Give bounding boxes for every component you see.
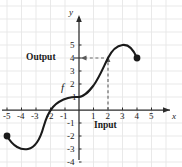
y-tick-label--1: -1 [67,119,75,128]
curve-endpoint-left [4,133,11,140]
output-guide-arrowhead [81,56,87,61]
graph-figure: -5 -4 -3 -2 -1 1 2 3 4 5 5 4 3 2 1 -1 -2… [0,0,182,167]
input-label: Input [94,121,117,131]
y-tick-label-1: 1 [72,93,77,102]
y-tick-label-4: 4 [70,54,75,63]
x-axis-name: x [172,112,176,121]
y-tick-label-3: 3 [70,67,75,76]
x-tick-label--5: -5 [3,112,11,121]
graph-canvas [0,0,182,167]
x-tick-label-5: 5 [149,112,154,121]
y-tick-label-5: 5 [70,41,75,50]
y-tick-label--2: -2 [67,132,75,141]
y-axis-name: y [69,8,73,17]
y-tick-label--4: -4 [67,158,75,167]
y-axis-arrowhead [76,15,82,22]
function-label: f [61,82,64,93]
output-label: Output [26,53,56,63]
curve-endpoint-right [134,55,141,62]
x-tick-label--4: -4 [17,112,25,121]
x-tick-label-4: 4 [135,112,140,121]
x-tick-label--3: -3 [31,112,39,121]
y-tick-label--3: -3 [67,145,75,154]
axis-lines [2,17,170,160]
grid-lines [0,0,182,167]
x-tick-label-3: 3 [120,112,125,121]
y-tick-label-2: 2 [70,80,75,89]
x-axis-arrowhead [163,107,170,113]
x-tick-label--2: -2 [46,112,54,121]
